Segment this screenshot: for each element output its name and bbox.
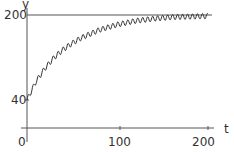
y-tick-40: 40 <box>11 93 26 107</box>
line-chart: y 200 40 0 100 200 t <box>0 0 234 152</box>
y-tick-200: 200 <box>4 8 27 22</box>
x-tick-200: 200 <box>192 135 215 149</box>
x-axis-label: t <box>224 122 229 136</box>
x-tick-100: 100 <box>108 135 131 149</box>
data-curve <box>27 13 208 100</box>
x-tick-0: 0 <box>18 135 26 149</box>
